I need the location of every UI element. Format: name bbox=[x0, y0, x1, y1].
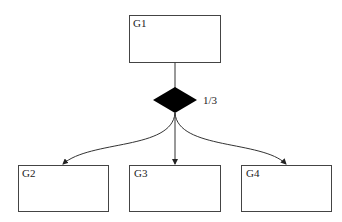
junction-label: 1/3 bbox=[203, 94, 218, 106]
node-g2-label: G2 bbox=[22, 167, 35, 179]
diagram-canvas: G1 1/3 G2 G3 G4 bbox=[0, 0, 342, 222]
edge-junction-g2 bbox=[63, 113, 175, 164]
edge-junction-g4 bbox=[175, 113, 286, 164]
node-g1-label: G1 bbox=[133, 17, 146, 29]
junction-diamond[interactable] bbox=[153, 87, 197, 113]
node-g3[interactable]: G3 bbox=[130, 166, 221, 212]
node-g3-label: G3 bbox=[134, 167, 148, 179]
node-g2[interactable]: G2 bbox=[19, 166, 109, 212]
node-g4-label: G4 bbox=[246, 167, 260, 179]
node-g4[interactable]: G4 bbox=[242, 166, 332, 212]
node-g1[interactable]: G1 bbox=[130, 16, 221, 63]
